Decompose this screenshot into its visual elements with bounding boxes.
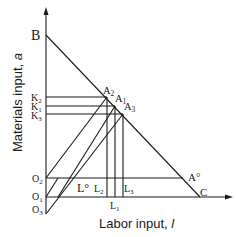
x-axis-arrow-icon (225, 195, 233, 200)
label-l3: L3 (124, 183, 134, 196)
diagram-canvas: B A2 A1 A3 A° C K2 K1 K3 O2 O1 O3 L° L2 … (0, 0, 236, 237)
label-b: B (31, 28, 40, 43)
label-l2: L2 (94, 183, 104, 196)
x-axis-title: Labor input, l (99, 216, 175, 231)
label-a3: A3 (124, 101, 136, 114)
label-a-star: A° (188, 171, 200, 183)
diagonal-o2-a2 (46, 97, 107, 178)
y-axis-title: Materials input, a (10, 53, 25, 152)
label-c: C (200, 186, 207, 198)
diagonal-o1-lower (46, 178, 58, 197)
diagonal-o3-a3 (46, 114, 123, 214)
label-o3: O3 (32, 204, 43, 217)
input-choice-diagram: B A2 A1 A3 A° C K2 K1 K3 O2 O1 O3 L° L2 … (0, 0, 236, 237)
label-l-star: L° (77, 181, 89, 195)
y-axis-arrow-icon (44, 7, 49, 15)
label-l1: L1 (110, 200, 120, 213)
label-o1: O1 (32, 191, 43, 204)
label-o2: O2 (32, 173, 43, 186)
